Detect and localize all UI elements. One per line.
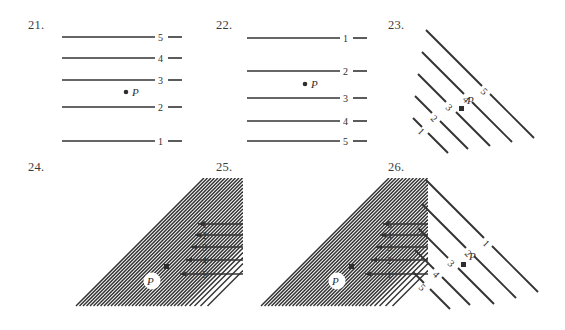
line-label-1: 1 bbox=[343, 33, 348, 44]
figure-24: 24. bbox=[0, 160, 188, 330]
line-2b bbox=[440, 121, 468, 149]
line-5b bbox=[490, 94, 534, 138]
point-p-dot bbox=[349, 264, 354, 269]
line-label-3: 3 bbox=[446, 258, 457, 269]
line-label-3: 3 bbox=[444, 102, 455, 113]
line-1b bbox=[492, 246, 538, 292]
line-1b bbox=[428, 133, 448, 153]
figure-26-drawing: 1 2 3 4 5 P bbox=[412, 174, 562, 314]
figure-23-drawing: 5 4 3 2 1 P bbox=[412, 22, 557, 154]
line-label-1: 1 bbox=[158, 136, 163, 147]
point-p-label: P bbox=[310, 78, 318, 90]
problem-number-21: 21. bbox=[28, 18, 44, 33]
line-label-5: 5 bbox=[417, 282, 428, 293]
problem-number-26: 26. bbox=[388, 160, 404, 175]
problem-number-25: 25. bbox=[216, 160, 232, 175]
line-label-4: 4 bbox=[343, 116, 348, 127]
point-p-dot bbox=[461, 262, 466, 267]
line-label-1: 1 bbox=[481, 238, 492, 249]
point-p-dot bbox=[459, 106, 464, 111]
figure-22-drawing: 1 2 3 4 5 P bbox=[245, 24, 370, 149]
line-2b bbox=[474, 256, 516, 298]
line-label-5: 5 bbox=[158, 32, 163, 43]
point-p-label: P bbox=[466, 94, 474, 106]
point-p-label: P bbox=[468, 250, 476, 262]
point-p-label: P bbox=[131, 86, 139, 98]
line-2 bbox=[422, 204, 466, 248]
line-4b bbox=[472, 102, 512, 142]
line-4 bbox=[415, 250, 434, 269]
figure-22: 22. 1 2 3 4 5 P bbox=[188, 0, 376, 160]
line-label-3: 3 bbox=[343, 93, 348, 104]
line-5 bbox=[413, 272, 424, 283]
line-label-5: 5 bbox=[479, 86, 490, 97]
point-p-label: P bbox=[331, 275, 339, 287]
line-label-1: 1 bbox=[416, 126, 427, 137]
problem-number-23: 23. bbox=[388, 18, 404, 33]
line-label-2: 2 bbox=[429, 113, 440, 124]
line-label-4: 4 bbox=[158, 53, 163, 64]
line-1 bbox=[413, 118, 422, 127]
line-label-5: 5 bbox=[343, 136, 348, 147]
line-4b bbox=[442, 277, 470, 305]
figure-23: 23. 5 4 3 2 1 P bbox=[376, 0, 565, 160]
figure-26: 26. 1 2 3 4 5 P bbox=[376, 160, 565, 330]
line-4 bbox=[422, 52, 464, 94]
point-p-label: P bbox=[146, 275, 154, 287]
line-3 bbox=[418, 74, 446, 102]
problem-number-24: 24. bbox=[28, 160, 44, 175]
line-5 bbox=[426, 30, 482, 86]
point-p-dot bbox=[124, 90, 129, 95]
figure-25: 25. bbox=[188, 160, 376, 330]
figure-21-drawing: 5 4 3 2 1 P bbox=[60, 24, 185, 149]
line-label-2: 2 bbox=[343, 66, 348, 77]
point-p-dot bbox=[164, 264, 169, 269]
problem-number-22: 22. bbox=[216, 18, 232, 33]
line-5b bbox=[430, 289, 450, 309]
line-label-3: 3 bbox=[158, 75, 163, 86]
line-label-4: 4 bbox=[431, 269, 442, 280]
line-label-2: 2 bbox=[158, 102, 163, 113]
line-1 bbox=[426, 180, 484, 238]
line-2 bbox=[415, 96, 432, 113]
figure-21: 21. 5 4 3 2 1 P bbox=[0, 0, 188, 160]
point-p-dot bbox=[303, 82, 308, 87]
line-3 bbox=[418, 228, 448, 258]
